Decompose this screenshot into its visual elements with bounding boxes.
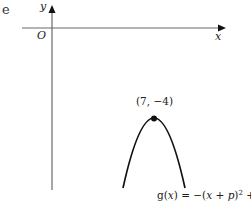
eq-mid: ) = −( [174,189,206,201]
diagram: e y O x (7, −4) g(x) = −(x + p)2 + q [0,0,251,204]
origin-label: O [37,30,46,41]
x-axis-label: x [215,31,221,42]
parabola-curve [123,118,185,188]
curve-equation: g(x) = −(x + p)2 + q [157,190,251,201]
eq-tail: + [243,189,251,201]
eq-function-name: g( [157,189,168,201]
eq-plus: + [212,189,227,201]
y-axis-label: y [40,1,46,12]
vertex-point [151,116,157,122]
vertex-label: (7, −4) [136,96,173,107]
y-axis-arrow-icon [49,5,56,13]
question-part-label: e [2,3,10,16]
